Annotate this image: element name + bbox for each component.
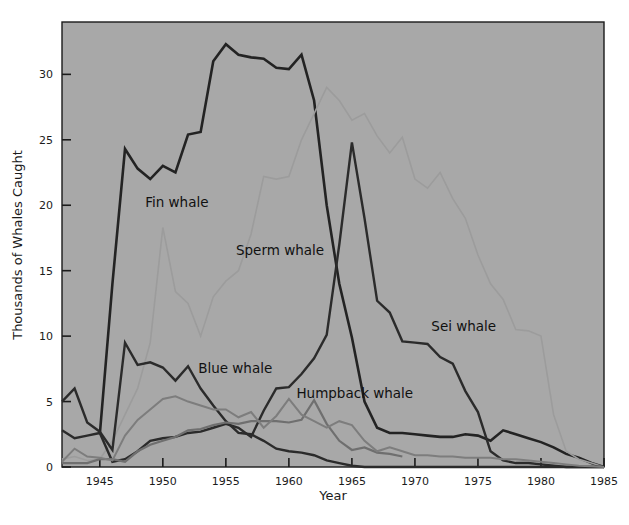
y-tick-label: 20 — [39, 199, 53, 212]
x-tick-label: 1960 — [275, 475, 303, 488]
x-tick-label: 1975 — [464, 475, 492, 488]
annotation-sperm-whale: Sperm whale — [236, 242, 324, 258]
x-tick-label: 1955 — [212, 475, 240, 488]
x-tick-label: 1945 — [86, 475, 114, 488]
annotation-fin-whale: Fin whale — [145, 194, 208, 210]
annotation-blue-whale: Blue whale — [198, 360, 272, 376]
x-axis-title: Year — [318, 488, 347, 503]
y-tick-label: 15 — [39, 265, 53, 278]
y-axis-tick-labels: 051015202530 — [39, 68, 53, 474]
line-chart-canvas: 051015202530 194519501955196019651970197… — [0, 0, 629, 525]
x-tick-label: 1965 — [338, 475, 366, 488]
y-tick-label: 30 — [39, 68, 53, 81]
y-tick-label: 25 — [39, 134, 53, 147]
x-tick-label: 1970 — [401, 475, 429, 488]
x-tick-label: 1980 — [527, 475, 555, 488]
y-axis-title: Thousands of Whales Caught — [10, 150, 25, 341]
x-tick-label: 1950 — [149, 475, 177, 488]
y-tick-label: 0 — [46, 461, 53, 474]
annotation-humpback-whale: Humpback whale — [296, 385, 413, 401]
x-axis-tick-labels: 194519501955196019651970197519801985 — [86, 475, 618, 488]
x-tick-label: 1985 — [590, 475, 618, 488]
y-tick-label: 5 — [46, 396, 53, 409]
y-tick-label: 10 — [39, 330, 53, 343]
annotation-sei-whale: Sei whale — [431, 318, 496, 334]
whaling-catch-chart-figure: 051015202530 194519501955196019651970197… — [0, 0, 629, 525]
